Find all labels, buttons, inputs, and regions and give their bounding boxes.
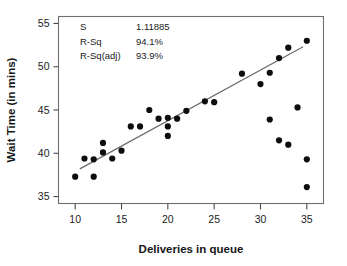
x-tick-label-30: 30 — [255, 213, 267, 225]
annotation-value-s: 1.11885 — [136, 21, 170, 32]
chart-canvas: 3540455055 101520253035 Deliveries in qu… — [0, 0, 347, 266]
data-point — [165, 115, 171, 121]
x-tick-label-15: 15 — [116, 213, 128, 225]
data-point — [91, 156, 97, 162]
data-point — [183, 108, 189, 114]
data-point — [109, 155, 115, 161]
y-tick-label-55: 55 — [38, 17, 50, 29]
data-point — [267, 70, 273, 76]
y-tick-label-40: 40 — [38, 147, 50, 159]
data-point — [276, 55, 282, 61]
data-point — [257, 81, 263, 87]
data-point — [128, 123, 134, 129]
annotation-label-r-sq-adj-: R-Sq(adj) — [80, 50, 121, 61]
data-point — [239, 71, 245, 77]
annotation-value-r-sq: 94.1% — [136, 36, 163, 47]
y-tick-label-45: 45 — [38, 104, 50, 116]
data-point — [267, 116, 273, 122]
data-point — [72, 174, 78, 180]
x-tick-label-25: 25 — [208, 213, 220, 225]
y-tick-label-35: 35 — [38, 190, 50, 202]
x-tick-label-35: 35 — [301, 213, 313, 225]
data-point — [91, 174, 97, 180]
chart-background — [0, 0, 347, 266]
annotation-value-r-sq-adj-: 93.9% — [136, 50, 163, 61]
data-point — [155, 116, 161, 122]
data-point — [100, 149, 106, 155]
data-point — [276, 137, 282, 143]
data-point — [146, 107, 152, 113]
x-axis-title: Deliveries in queue — [139, 243, 244, 255]
data-point — [304, 184, 310, 190]
data-point — [285, 45, 291, 51]
data-point — [81, 155, 87, 161]
scatter-plot-figure: 3540455055 101520253035 Deliveries in qu… — [0, 0, 347, 266]
data-point — [118, 148, 124, 154]
data-point — [285, 142, 291, 148]
data-point — [304, 156, 310, 162]
x-tick-label-20: 20 — [162, 213, 174, 225]
data-point — [174, 116, 180, 122]
data-point — [100, 140, 106, 146]
x-tick-label-10: 10 — [69, 213, 81, 225]
data-point — [304, 38, 310, 44]
y-tick-label-50: 50 — [38, 60, 50, 72]
annotation-label-s: S — [80, 21, 86, 32]
annotation-label-r-sq: R-Sq — [80, 36, 102, 47]
data-point — [294, 104, 300, 110]
y-axis-title: Wait Time (in mins) — [5, 57, 17, 162]
data-point — [211, 99, 217, 105]
data-point — [165, 123, 171, 129]
data-point — [165, 133, 171, 139]
data-point — [137, 123, 143, 129]
data-point — [202, 98, 208, 104]
